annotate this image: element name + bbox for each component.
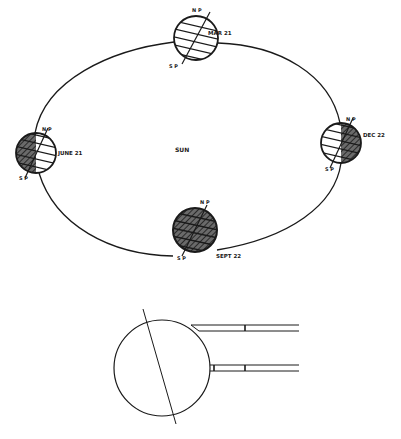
inset-axis-line (143, 309, 176, 424)
globe-june-21: N P S P JUNE 21 (14, 126, 83, 181)
date-label-mar-21: MAR 21 (208, 30, 232, 36)
south-pole-label: S P (169, 63, 178, 69)
inset-ray-diagram (114, 309, 299, 424)
globe-mar-21: N P S P MAR 21 (169, 7, 232, 69)
north-pole-label: N P (200, 199, 210, 205)
date-label-june-21: JUNE 21 (57, 150, 83, 157)
north-pole-label: N P (42, 126, 52, 132)
lower-ray-band (210, 365, 299, 371)
inset-globe (114, 320, 210, 416)
south-pole-label: S P (177, 255, 186, 261)
upper-ray-band (191, 325, 299, 331)
south-pole-label: S P (325, 166, 334, 172)
seasons-diagram: SUN N P S P MAR 21 N P (0, 0, 401, 439)
sun-label: SUN (175, 146, 189, 153)
axis-line (182, 12, 210, 64)
south-pole-label: S P (19, 175, 28, 181)
north-pole-label: N P (346, 116, 356, 122)
date-label-dec-22: DEC 22 (363, 132, 385, 138)
north-pole-label: N P (192, 7, 202, 13)
date-label-sept-22: SEPT 22 (216, 253, 241, 259)
globe-dec-22: N P S P DEC 22 (319, 116, 385, 172)
globe-sept-22: N P S P SEPT 22 (172, 199, 241, 261)
